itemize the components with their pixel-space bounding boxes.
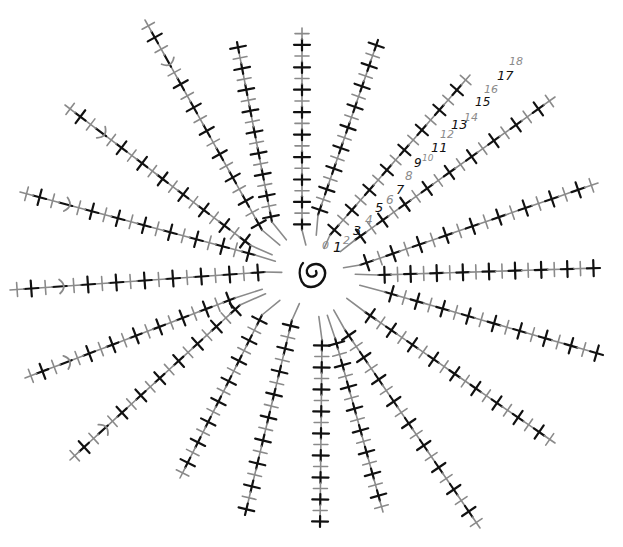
spoke-s-2 — [312, 340, 330, 527]
single-crochet-icon — [372, 375, 385, 384]
single-crochet-icon — [501, 127, 509, 138]
single-crochet-icon — [504, 404, 512, 416]
single-crochet-icon — [365, 365, 377, 373]
single-crochet-icon — [248, 327, 261, 333]
single-crochet-icon — [489, 264, 490, 280]
row-number-label: 11 — [431, 140, 448, 155]
single-crochet-icon — [191, 439, 205, 446]
single-crochet-icon — [17, 283, 18, 297]
single-crochet-icon — [342, 331, 355, 340]
spoke-se-1 — [365, 309, 555, 445]
single-crochet-icon — [229, 267, 230, 283]
single-crochet-icon — [176, 470, 189, 476]
single-crochet-icon — [402, 419, 415, 428]
magic-ring-icon — [300, 263, 325, 287]
single-crochet-icon — [546, 434, 554, 446]
single-crochet-icon — [429, 353, 438, 366]
single-crochet-icon — [240, 235, 250, 248]
single-crochet-icon — [366, 309, 375, 322]
single-crochet-icon — [541, 262, 542, 278]
single-crochet-icon — [545, 95, 553, 106]
single-crochet-icon — [259, 194, 275, 197]
single-crochet-icon — [400, 198, 409, 211]
single-crochet-icon — [238, 88, 254, 91]
single-crochet-icon — [434, 175, 442, 186]
single-crochet-icon — [207, 409, 220, 415]
single-crochet-icon — [467, 150, 476, 163]
single-crochet-icon — [450, 367, 459, 380]
single-crochet-icon — [489, 134, 498, 147]
single-crochet-icon — [357, 353, 370, 362]
single-crochet-icon — [201, 418, 215, 425]
single-crochet-icon — [197, 429, 210, 435]
single-crochet-icon — [45, 281, 46, 295]
row-number-label: 9 — [414, 156, 422, 170]
row-number-label: 16 — [484, 83, 498, 96]
single-crochet-icon — [378, 214, 387, 227]
single-crochet-icon — [263, 215, 279, 218]
single-crochet-icon — [239, 197, 253, 205]
single-crochet-icon — [31, 281, 32, 297]
single-crochet-icon — [187, 449, 200, 455]
single-crochet-icon — [462, 507, 475, 516]
single-crochet-icon — [232, 357, 246, 364]
single-crochet-icon — [380, 387, 392, 395]
single-crochet-icon — [387, 397, 400, 406]
single-crochet-icon — [463, 264, 464, 280]
single-crochet-icon — [217, 388, 230, 394]
single-crochet-icon — [128, 150, 136, 161]
single-crochet-icon — [117, 141, 127, 154]
row-number-label: 2 — [343, 234, 350, 247]
single-crochet-icon — [207, 139, 219, 146]
single-crochet-icon — [87, 277, 88, 293]
single-crochet-icon — [158, 273, 159, 287]
row-number-label: 15 — [475, 95, 490, 109]
single-crochet-icon — [168, 69, 180, 76]
single-crochet-icon — [398, 332, 406, 344]
single-crochet-icon — [144, 273, 145, 289]
single-crochet-icon — [199, 204, 209, 217]
single-crochet-icon — [148, 34, 162, 42]
single-crochet-icon — [246, 209, 258, 216]
single-crochet-icon — [200, 127, 214, 135]
single-crochet-icon — [535, 425, 544, 438]
single-crochet-icon — [412, 191, 420, 202]
row-number-label: 6 — [386, 193, 394, 207]
single-crochet-icon — [408, 338, 417, 351]
single-crochet-icon — [194, 116, 206, 123]
row-number-label: 17 — [497, 68, 514, 83]
single-crochet-icon — [515, 263, 516, 279]
single-crochet-icon — [567, 261, 568, 277]
single-crochet-icon — [234, 67, 250, 70]
single-crochet-icon — [410, 431, 422, 439]
single-crochet-icon — [492, 396, 501, 409]
single-crochet-icon — [410, 266, 411, 282]
single-crochet-icon — [471, 382, 480, 395]
single-crochet-icon — [593, 260, 594, 276]
single-crochet-icon — [247, 130, 263, 133]
spoke-s-3 — [239, 320, 299, 515]
single-crochet-icon — [425, 453, 437, 461]
single-crochet-icon — [251, 152, 267, 155]
single-crochet-icon — [445, 166, 454, 179]
row-number-label: 7 — [396, 182, 405, 197]
single-crochet-icon — [116, 275, 117, 291]
single-crochet-icon — [470, 519, 482, 527]
row-number-label: 1 — [333, 239, 342, 255]
single-crochet-icon — [242, 337, 256, 344]
single-crochet-icon — [222, 378, 236, 385]
single-crochet-icon — [432, 463, 445, 472]
single-crochet-icon — [137, 157, 147, 170]
single-crochet-icon — [213, 150, 227, 158]
single-crochet-icon — [243, 267, 244, 281]
row-number-label: 14 — [464, 111, 478, 124]
single-crochet-icon — [148, 166, 156, 177]
single-crochet-icon — [181, 459, 195, 466]
single-crochet-icon — [187, 104, 201, 112]
single-crochet-icon — [238, 348, 251, 354]
single-crochet-icon — [461, 375, 469, 387]
single-crochet-icon — [155, 46, 167, 53]
single-crochet-icon — [440, 475, 452, 483]
single-crochet-icon — [417, 441, 430, 450]
row-number-label: 3 — [353, 223, 361, 238]
